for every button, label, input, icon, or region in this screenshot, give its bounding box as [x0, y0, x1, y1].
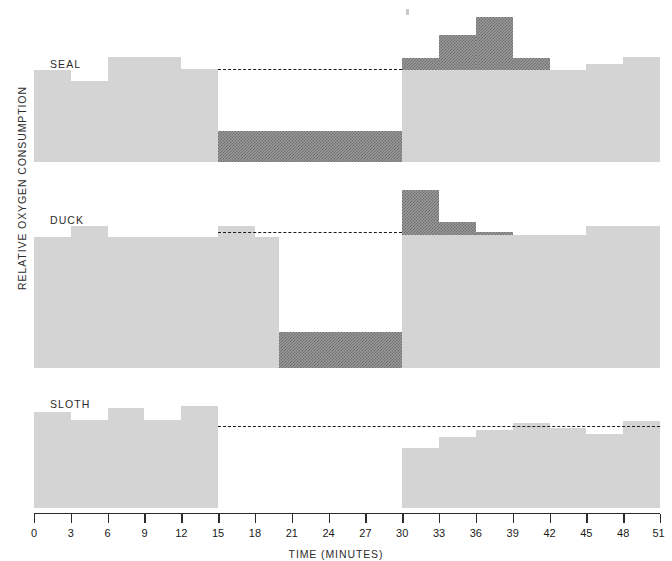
x-tick-label: 9 — [141, 527, 147, 539]
plot-area-sloth — [34, 396, 660, 508]
trace-step — [586, 226, 623, 368]
reference-dashed-line — [218, 426, 660, 427]
x-tick-label: 12 — [175, 527, 187, 539]
x-tick — [476, 514, 477, 523]
trace-step — [279, 332, 402, 368]
trace-step — [144, 420, 181, 508]
x-tick — [255, 514, 256, 523]
x-tick-label: 42 — [543, 527, 555, 539]
x-axis: 03691215182124273033363942454851 TIME (M… — [0, 505, 672, 561]
x-tick-label: 45 — [580, 527, 592, 539]
x-tick — [586, 514, 587, 523]
trace-step — [402, 70, 586, 162]
trace-step — [144, 57, 181, 162]
x-tick-label: 0 — [31, 527, 37, 539]
plot-area-duck — [34, 186, 660, 368]
trace-step — [34, 70, 71, 162]
trace-step — [71, 226, 108, 368]
x-tick-label: 39 — [507, 527, 519, 539]
trace-step — [181, 69, 218, 162]
trace-step — [108, 57, 145, 162]
panel-seal: SEAL — [0, 14, 672, 162]
trace-step — [34, 237, 71, 368]
x-tick — [365, 514, 366, 523]
x-tick — [71, 514, 72, 523]
trace-step — [550, 428, 587, 508]
trace-step — [34, 412, 71, 508]
trace-step — [586, 434, 623, 508]
x-tick-label: 21 — [286, 527, 298, 539]
x-axis-label: TIME (MINUTES) — [0, 548, 672, 560]
trace-step — [71, 81, 108, 162]
trace-step — [623, 226, 660, 368]
trace-step — [71, 420, 108, 508]
x-tick-label: 48 — [617, 527, 629, 539]
x-tick-label: 36 — [470, 527, 482, 539]
x-tick — [513, 514, 514, 523]
trace-step — [218, 131, 402, 162]
x-tick-label: 33 — [433, 527, 445, 539]
trace-step — [402, 448, 439, 508]
trace-step — [513, 423, 550, 508]
trace-step — [181, 406, 218, 508]
x-tick-label: 51 — [652, 527, 664, 539]
x-tick — [550, 514, 551, 523]
x-tick-label: 30 — [396, 527, 408, 539]
trace-step — [108, 408, 145, 508]
x-tick-label: 18 — [249, 527, 261, 539]
panel-sloth: SLOTH — [0, 396, 672, 508]
x-tick — [144, 514, 145, 523]
x-axis-line — [34, 513, 660, 514]
x-tick — [108, 514, 109, 523]
reference-dashed-line — [218, 232, 402, 233]
reference-dashed-line — [218, 69, 402, 70]
x-tick — [34, 514, 35, 523]
x-tick — [329, 514, 330, 523]
x-tick-label: 3 — [68, 527, 74, 539]
trace-step — [476, 430, 513, 508]
x-tick — [439, 514, 440, 523]
trace-step — [439, 437, 476, 508]
trace-step — [218, 226, 255, 368]
trace-step — [623, 57, 660, 162]
trace-step — [586, 64, 623, 162]
trace-step — [108, 237, 218, 368]
x-tick-label: 6 — [105, 527, 111, 539]
plot-area-seal — [34, 14, 660, 162]
x-tick — [402, 514, 403, 523]
trace-step — [255, 237, 280, 368]
trace-step — [623, 421, 660, 508]
x-tick-label: 24 — [322, 527, 334, 539]
trace-step — [402, 235, 586, 368]
x-tick — [181, 514, 182, 523]
x-tick — [660, 514, 661, 523]
x-tick-label: 15 — [212, 527, 224, 539]
panel-duck: DUCK — [0, 186, 672, 368]
x-tick — [218, 514, 219, 523]
x-tick — [623, 514, 624, 523]
x-tick-label: 27 — [359, 527, 371, 539]
x-tick — [292, 514, 293, 523]
figure-canvas: RELATIVE OXYGEN CONSUMPTION SEAL DUCK SL… — [0, 0, 672, 561]
